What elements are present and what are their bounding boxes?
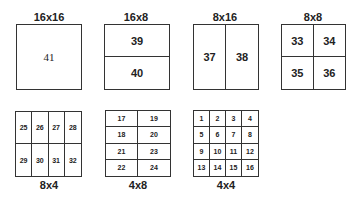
block-cell: 26 (32, 112, 48, 144)
block-cell: 29 (16, 144, 32, 176)
block-cell: 16 (242, 160, 258, 176)
block-cell: 10 (210, 144, 226, 160)
block-cell: 7 (226, 127, 242, 143)
block-cell: 11 (226, 144, 242, 160)
block-cell: 19 (138, 111, 170, 127)
block-cell: 38 (226, 25, 258, 89)
block-cell: 35 (282, 57, 314, 89)
block-cell: 9 (194, 144, 210, 160)
block-cell: 3 (226, 111, 242, 127)
block-cell: 37 (194, 25, 226, 89)
block-cell: 20 (138, 127, 170, 143)
block-cell: 6 (210, 127, 226, 143)
partition-4x4: 1 2 3 4 5 6 7 8 9 10 11 12 13 14 15 16 (193, 110, 259, 177)
block-cell: 8 (242, 127, 258, 143)
block-cell: 39 (105, 25, 169, 57)
block-cell: 22 (106, 160, 138, 176)
block-cell: 30 (32, 144, 48, 176)
block-cell: 31 (49, 144, 65, 176)
partition-8x16: 37 38 (193, 24, 259, 90)
block-cell: 36 (314, 57, 346, 89)
partition-16x8: 39 40 (104, 24, 170, 90)
block-cell: 40 (105, 57, 169, 89)
block-cell: 12 (242, 144, 258, 160)
block-cell: 25 (16, 112, 32, 144)
block-cell: 33 (282, 25, 314, 57)
block-cell: 32 (65, 144, 81, 176)
label-4x4: 4x4 (191, 179, 261, 191)
block-cell: 27 (49, 112, 65, 144)
block-cell: 28 (65, 112, 81, 144)
block-cell: 34 (314, 25, 346, 57)
block-cell: 1 (194, 111, 210, 127)
partition-8x8: 33 34 35 36 (281, 24, 346, 90)
block-cell: 15 (226, 160, 242, 176)
block-cell: 17 (106, 111, 138, 127)
partition-8x4: 25 26 27 28 29 30 31 32 (15, 111, 82, 177)
block-cell: 23 (138, 144, 170, 160)
label-16x16: 16x16 (14, 11, 84, 23)
partition-16x16: 41 (16, 24, 82, 90)
block-cell: 4 (242, 111, 258, 127)
block-cell: 5 (194, 127, 210, 143)
label-16x8: 16x8 (101, 11, 171, 23)
label-8x8: 8x8 (278, 11, 348, 23)
partition-4x8: 17 19 18 20 21 23 22 24 (105, 110, 171, 177)
block-cell: 41 (17, 25, 81, 89)
block-cell: 18 (106, 127, 138, 143)
label-4x8: 4x8 (103, 179, 173, 191)
label-8x16: 8x16 (190, 11, 260, 23)
block-cell: 2 (210, 111, 226, 127)
block-cell: 21 (106, 144, 138, 160)
block-cell: 24 (138, 160, 170, 176)
block-cell: 14 (210, 160, 226, 176)
label-8x4: 8x4 (14, 179, 84, 191)
block-cell: 13 (194, 160, 210, 176)
